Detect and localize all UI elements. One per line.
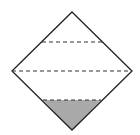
diamond-diagram [0, 0, 140, 135]
shaded-bottom-triangle [43, 100, 101, 130]
